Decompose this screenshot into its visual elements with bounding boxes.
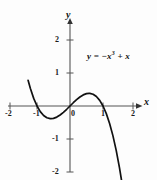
- equation-tail: + x: [115, 51, 130, 61]
- y-tick-label-minus2: -2: [52, 168, 59, 176]
- x-tick-label-0: 0: [71, 110, 75, 118]
- equation-annotation: y = −x3 + x: [87, 51, 130, 61]
- x-tick-label-minus2: -2: [5, 110, 12, 118]
- y-tick-label-1: 1: [55, 69, 59, 77]
- y-tick-label-2: 2: [55, 36, 59, 44]
- x-tick-label-2: 2: [131, 110, 135, 118]
- x-axis-label: x: [144, 97, 149, 107]
- x-tick-label-1: 1: [101, 110, 105, 118]
- y-axis-label: y: [66, 10, 70, 20]
- equation-head: y = −x: [87, 51, 112, 61]
- cubic-curve: [28, 80, 122, 180]
- plot-canvas: [0, 0, 157, 180]
- x-tick-label-minus1: -1: [33, 110, 40, 118]
- y-tick-label-minus1: -1: [52, 135, 59, 143]
- x-axis-arrowhead: [136, 103, 143, 109]
- graph-figure: 2 1 -1 -2 -2 -1 0 1 2 y x y = −x3 + x: [0, 0, 157, 180]
